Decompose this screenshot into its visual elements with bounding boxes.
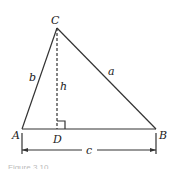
label-vertex-c: C	[51, 14, 60, 27]
label-side-a: a	[108, 65, 115, 78]
label-vertex-d: D	[52, 133, 62, 146]
label-altitude-h: h	[60, 80, 67, 93]
arrowhead-left-icon	[22, 148, 28, 152]
label-vertex-b: B	[158, 129, 167, 142]
side-b	[22, 28, 57, 129]
right-angle-marker	[57, 121, 65, 129]
side-a	[57, 28, 156, 129]
label-side-c: c	[86, 144, 92, 157]
arrowhead-right-icon	[150, 148, 156, 152]
label-side-b: b	[29, 71, 36, 84]
label-vertex-a: A	[11, 129, 20, 142]
figure-caption: Figure 3.10	[8, 163, 49, 169]
triangle-diagram: C b a h A D B c Figure 3.10	[0, 0, 175, 169]
